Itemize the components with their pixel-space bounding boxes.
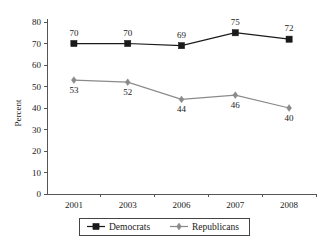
y-tick-label: 60 [32, 60, 42, 70]
y-tick-label: 40 [32, 103, 42, 113]
x-tick-label: 2006 [173, 200, 192, 210]
data-label-republicans: 53 [69, 85, 79, 95]
data-label-republicans: 52 [123, 87, 132, 97]
y-tick-label: 80 [32, 17, 42, 27]
chart-canvas: 01020304050607080 20012003200620072008 P… [0, 0, 328, 247]
data-label-republicans: 46 [231, 100, 241, 110]
y-tick-label: 70 [32, 39, 42, 49]
line-chart-figure: 01020304050607080 20012003200620072008 P… [0, 0, 328, 247]
data-label-democrats: 75 [231, 17, 241, 27]
legend-label: Democrats [109, 222, 150, 232]
data-point-marker [178, 43, 184, 49]
y-tick-label: 50 [32, 82, 42, 92]
data-label-democrats: 72 [285, 23, 294, 33]
x-tick-label: 2001 [65, 200, 83, 210]
y-tick-label: 0 [37, 189, 42, 199]
x-tick-label: 2003 [119, 200, 138, 210]
data-point-marker [125, 40, 131, 46]
x-tick-label: 2007 [226, 200, 245, 210]
x-tick-label: 2008 [280, 200, 299, 210]
y-axis-title: Percent [13, 99, 23, 126]
data-label-democrats: 70 [69, 28, 79, 38]
data-label-democrats: 69 [177, 30, 187, 40]
data-point-marker [71, 40, 77, 46]
y-tick-label: 10 [32, 168, 42, 178]
data-point-marker [286, 36, 292, 42]
legend-label: Republicans [192, 222, 239, 232]
data-point-marker [232, 30, 238, 36]
y-tick-label: 30 [32, 125, 42, 135]
y-tick-label: 20 [32, 146, 42, 156]
data-point-marker [93, 223, 99, 229]
data-label-republicans: 44 [177, 104, 187, 114]
chart-background [0, 0, 328, 247]
chart-legend: DemocratsRepublicans [79, 218, 249, 235]
data-label-republicans: 40 [285, 113, 295, 123]
data-label-democrats: 70 [123, 28, 133, 38]
